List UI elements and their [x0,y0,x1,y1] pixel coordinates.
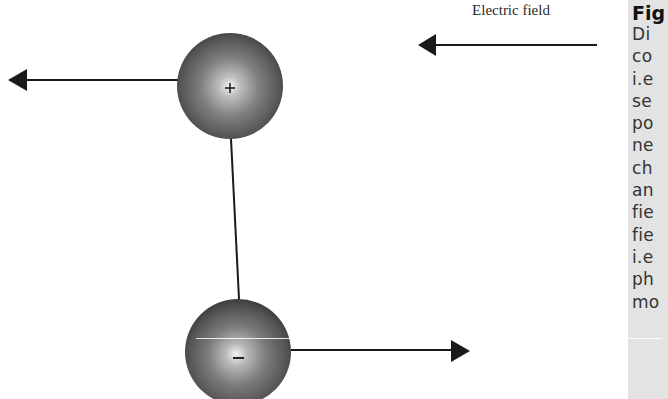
electric-field-label: Electric field [456,2,566,19]
caption-line: ch [632,157,660,179]
caption-line: se [632,90,660,112]
caption-line: an [632,179,660,201]
force-arrow-positive [8,69,178,91]
scan-artifact-line [196,338,662,339]
caption-line: co [632,45,660,67]
arrowhead-left-icon [8,69,27,91]
figure-caption-panel: Fig Di co i.e se po ne ch an fie fie i.e… [628,0,668,399]
caption-line: Di [632,23,660,45]
caption-line: mo [632,291,660,313]
caption-line: fie [632,224,660,246]
caption-title: Fig [632,2,665,24]
caption-text: Di co i.e se po ne ch an fie fie i.e ph … [632,23,660,313]
electric-field-arrow [418,34,597,56]
positive-charge-sphere [177,33,283,139]
caption-line: ne [632,134,660,156]
caption-line: i.e [632,68,660,90]
caption-line: ph [632,268,660,290]
dipole-rod [231,139,239,299]
arrowhead-left-icon [418,34,436,56]
arrowhead-right-icon [451,340,470,362]
caption-line: fie [632,201,660,223]
caption-line: po [632,112,660,134]
force-arrow-negative [291,340,470,362]
caption-line: i.e [632,246,660,268]
negative-charge-sphere [185,299,291,399]
